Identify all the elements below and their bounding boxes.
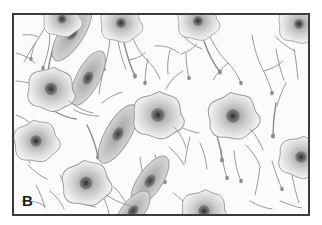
panel-label-b: B: [22, 193, 33, 208]
stellate-neuron: [279, 15, 308, 43]
panel-frame-border: B: [12, 13, 310, 216]
figure-root: B: [0, 0, 322, 225]
nervous-tissue-illustration: [14, 15, 308, 214]
